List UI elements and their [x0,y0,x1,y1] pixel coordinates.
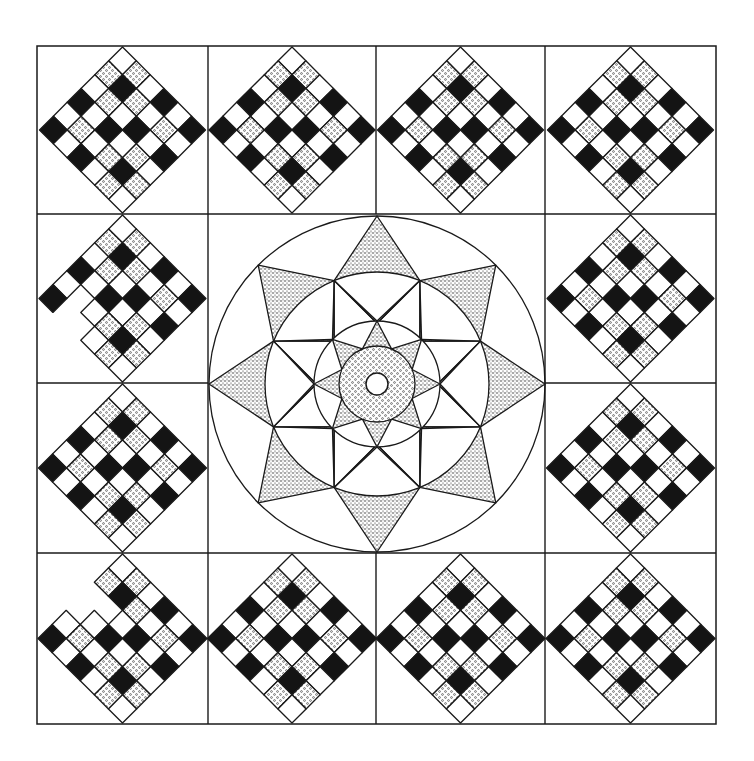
diamond-block [39,215,206,382]
center-hole [366,373,388,395]
diamond-block [209,47,375,213]
diamond-block [40,47,206,213]
diamond-block [546,554,715,723]
diamond-block [547,384,715,552]
diamond-block [38,554,207,723]
star-medallion [209,216,545,552]
diamond-block [548,47,714,213]
diamond-block [378,47,544,213]
diamond-block [208,554,377,723]
quilt-canvas [0,0,754,761]
diamond-block [39,384,207,552]
diamond-block [376,554,545,723]
diamond-block [547,215,714,382]
